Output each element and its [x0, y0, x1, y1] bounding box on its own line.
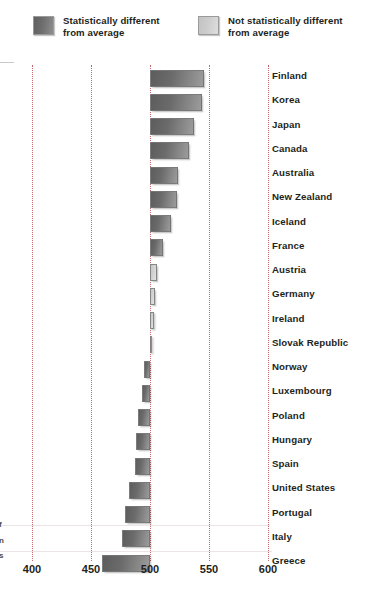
bar-poland[interactable]: [138, 409, 150, 426]
bar-japan[interactable]: [150, 118, 194, 135]
bar-chart-plot-area: FinlandKoreaJapanCanadaAustraliaNew Zeal…: [0, 62, 377, 559]
bar-norway[interactable]: [144, 361, 150, 378]
category-label-france: France: [272, 240, 304, 251]
bar-italy[interactable]: [122, 530, 150, 547]
chart-row: Spain: [0, 454, 377, 478]
x-axis: 400450500550600: [0, 559, 377, 597]
bar-australia[interactable]: [150, 167, 178, 184]
category-label-new-zealand: New Zealand: [272, 191, 332, 202]
category-label-korea: Korea: [272, 94, 300, 105]
bar-canada[interactable]: [150, 142, 189, 159]
bar-portugal[interactable]: [125, 506, 150, 523]
legend-label-line2: from average: [63, 27, 124, 38]
chart-row: Norway: [0, 357, 377, 381]
bar-hungary[interactable]: [136, 433, 150, 450]
chart-row: Portugal: [0, 503, 377, 527]
category-label-ireland: Ireland: [272, 313, 304, 324]
category-label-iceland: Iceland: [272, 216, 306, 227]
edge-text-fragment: f: [0, 520, 7, 529]
category-label-spain: Spain: [272, 458, 299, 469]
legend-label-line2: from average: [228, 27, 289, 38]
bar-luxembourg[interactable]: [142, 385, 150, 402]
chart-row: Canada: [0, 139, 377, 163]
category-label-australia: Australia: [272, 167, 314, 178]
edge-text-fragment: n: [0, 536, 7, 545]
chart-row: Finland: [0, 66, 377, 90]
x-tick-450: 450: [82, 563, 100, 575]
category-label-luxembourg: Luxembourg: [272, 385, 332, 396]
category-label-norway: Norway: [272, 361, 308, 372]
clipped-left-edge-text: fns: [0, 0, 12, 597]
category-label-canada: Canada: [272, 143, 308, 154]
bar-united-states[interactable]: [129, 482, 150, 499]
dark-gray-swatch-icon: [33, 16, 54, 35]
legend-label-statistically-different: Statistically different from average: [63, 15, 160, 38]
legend-item-statistically-different: Statistically different from average: [33, 15, 160, 38]
bar-korea[interactable]: [150, 94, 202, 111]
chart-row: France: [0, 236, 377, 260]
bar-finland[interactable]: [150, 70, 204, 87]
x-tick-500: 500: [141, 563, 159, 575]
chart-row: Iceland: [0, 212, 377, 236]
decorative-hairline-1: [0, 525, 270, 526]
chart-row: Ireland: [0, 309, 377, 333]
chart-row: United States: [0, 478, 377, 502]
chart-row: Slovak Republic: [0, 333, 377, 357]
x-tick-550: 550: [200, 563, 218, 575]
bar-rows: FinlandKoreaJapanCanadaAustraliaNew Zeal…: [0, 66, 377, 575]
category-label-austria: Austria: [272, 264, 306, 275]
category-label-portugal: Portugal: [272, 507, 312, 518]
bar-france[interactable]: [150, 239, 163, 256]
bar-spain[interactable]: [135, 458, 150, 475]
bar-austria[interactable]: [150, 264, 157, 281]
category-label-finland: Finland: [272, 70, 307, 81]
chart-row: Poland: [0, 406, 377, 430]
category-label-germany: Germany: [272, 288, 315, 299]
bar-slovak-republic[interactable]: [150, 336, 152, 353]
bar-ireland[interactable]: [150, 312, 154, 329]
category-label-slovak-republic: Slovak Republic: [272, 337, 348, 348]
chart-row: Korea: [0, 90, 377, 114]
category-label-japan: Japan: [272, 119, 301, 130]
chart-row: New Zealand: [0, 187, 377, 211]
category-label-united-states: United States: [272, 482, 335, 493]
bar-iceland[interactable]: [150, 215, 171, 232]
chart-row: Austria: [0, 260, 377, 284]
legend-item-not-statistically-different: Not statistically different from average: [198, 15, 343, 38]
chart-legend: Statistically different from average Not…: [0, 0, 377, 62]
decorative-hairline-2: [0, 551, 272, 552]
bar-new-zealand[interactable]: [150, 191, 177, 208]
bar-germany[interactable]: [150, 288, 155, 305]
x-tick-600: 600: [259, 563, 277, 575]
legend-label-not-statistically-different: Not statistically different from average: [228, 15, 343, 38]
edge-text-fragment: s: [0, 551, 7, 560]
chart-row: Hungary: [0, 430, 377, 454]
legend-label-line1: Not statistically different: [228, 15, 343, 26]
legend-label-line1: Statistically different: [63, 15, 160, 26]
category-label-poland: Poland: [272, 410, 305, 421]
light-gray-swatch-icon: [198, 16, 219, 35]
x-tick-400: 400: [23, 563, 41, 575]
category-label-italy: Italy: [272, 531, 292, 542]
category-label-hungary: Hungary: [272, 434, 312, 445]
chart-row: Germany: [0, 284, 377, 308]
chart-row: Australia: [0, 163, 377, 187]
chart-row: Luxembourg: [0, 381, 377, 405]
chart-row: Italy: [0, 527, 377, 551]
chart-row: Japan: [0, 115, 377, 139]
